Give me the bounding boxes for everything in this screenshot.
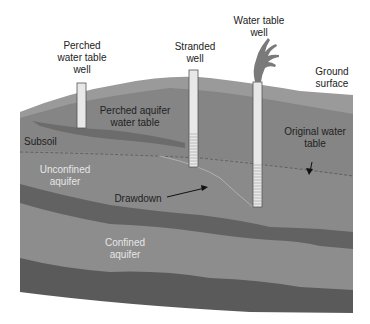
- perched-well-casing: [77, 83, 86, 128]
- unconfined-aquifer-label: Unconfined aquifer: [30, 164, 100, 188]
- ground-surface-label: Ground surface: [302, 66, 362, 90]
- perched-aquifer-label: Perched aquifer water table: [90, 105, 180, 129]
- water-table-well-label: Water table well: [224, 15, 294, 39]
- drawdown-label: Drawdown: [108, 193, 168, 205]
- confined-aquifer-label: Confined aquifer: [95, 237, 155, 261]
- perched-well-label: Perched water table well: [52, 40, 112, 76]
- water-plume-icon: [254, 38, 279, 82]
- stranded-well-label: Stranded well: [165, 41, 225, 65]
- stranded-well-casing: [189, 70, 198, 167]
- subsoil-label: Subsoil: [24, 136, 57, 148]
- water-table-well-casing: [253, 82, 262, 207]
- original-water-table-label: Original water table: [275, 126, 355, 150]
